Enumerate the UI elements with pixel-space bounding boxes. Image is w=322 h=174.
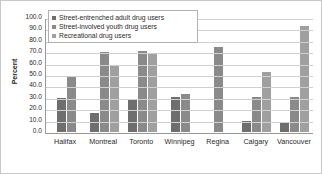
y-axis-tick-label: 10.0 (12, 116, 42, 123)
bar (252, 97, 261, 132)
gridline (46, 122, 313, 123)
x-axis-tick-label: Calgary (237, 137, 275, 146)
y-axis-tick-label: 60.0 (12, 59, 42, 66)
x-axis-tick-label: Montreal (84, 137, 122, 146)
bar (67, 76, 76, 132)
y-axis-tick-label: 100.0 (12, 13, 42, 20)
bar (171, 97, 180, 132)
legend-item: Recreational drug users (52, 31, 194, 40)
legend-item-label: Street-entrenched adult drug users (59, 13, 164, 22)
legend-item: Street-involved youth drug users (52, 22, 194, 31)
y-axis-tick-label: 40.0 (12, 81, 42, 88)
x-axis-tick-label: Regina (199, 137, 237, 146)
x-axis-tick-labels: HalifaxMontrealTorontoWinnipegReginaCalg… (46, 137, 313, 146)
legend-swatch-icon (52, 34, 56, 38)
y-axis-tick-label: 0.0 (12, 127, 42, 134)
x-axis-tick-label: Toronto (122, 137, 160, 146)
bar (128, 100, 137, 132)
bar (148, 54, 157, 132)
gridline (46, 87, 313, 88)
legend-item: Street-entrenched adult drug users (52, 13, 194, 22)
gridline (46, 76, 313, 77)
x-axis-tick-label: Vancouver (275, 137, 313, 146)
bar (181, 94, 190, 132)
y-axis-tick-label: 90.0 (12, 24, 42, 31)
y-axis-tick-label: 50.0 (12, 70, 42, 77)
gridline (46, 65, 313, 66)
legend-swatch-icon (52, 25, 56, 29)
bar (280, 123, 289, 132)
gridline (46, 110, 313, 111)
y-axis-tick-label: 70.0 (12, 47, 42, 54)
x-axis-tick-label: Winnipeg (160, 137, 198, 146)
bar (290, 97, 299, 132)
bar (138, 51, 147, 132)
bar (262, 72, 271, 132)
chart-legend: Street-entrenched adult drug usersStreet… (48, 10, 198, 43)
y-axis-tick-labels: 100.090.080.070.060.050.040.030.020.010.… (12, 16, 42, 134)
y-axis-tick-label: 20.0 (12, 104, 42, 111)
legend-swatch-icon (52, 16, 56, 20)
y-axis-tick-label: 30.0 (12, 93, 42, 100)
bar-chart: Percent 100.090.080.070.060.050.040.030.… (0, 0, 322, 174)
bar (57, 98, 66, 132)
legend-item-label: Street-involved youth drug users (59, 22, 157, 31)
legend-item-label: Recreational drug users (59, 31, 131, 40)
gridline (46, 99, 313, 100)
y-axis-tick-label: 80.0 (12, 36, 42, 43)
gridline (46, 53, 313, 54)
x-axis-tick-label: Halifax (46, 137, 84, 146)
bar (214, 47, 223, 133)
